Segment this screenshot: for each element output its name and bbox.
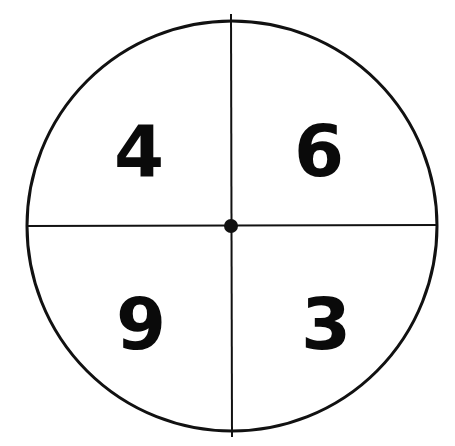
spinner-diagram: 4 6 9 3: [0, 0, 455, 446]
section-label-top-right: 6: [294, 109, 344, 193]
section-label-bottom-right: 3: [301, 282, 351, 366]
section-label-top-left: 4: [114, 109, 164, 193]
section-label-bottom-left: 9: [116, 282, 166, 366]
center-pivot: [224, 219, 238, 233]
